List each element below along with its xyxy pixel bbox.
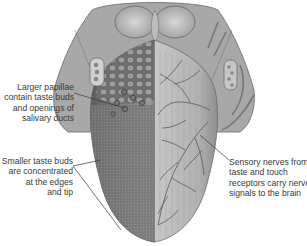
tongue-diagram: Larger papillae contain taste buds and o… <box>0 0 307 246</box>
label-smaller-taste-buds: Smaller taste buds are concentrated at t… <box>0 156 73 198</box>
epiglottis <box>115 6 195 42</box>
label-sensory-nerves: Sensory nerves from taste and touch rece… <box>229 157 307 199</box>
label-larger-papillae: Larger papillae contain taste buds and o… <box>0 82 74 124</box>
left-gland <box>90 58 104 86</box>
